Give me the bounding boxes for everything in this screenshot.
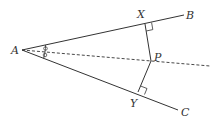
right-angle-mark-y — [141, 86, 147, 95]
label-b: B — [185, 9, 194, 22]
label-p: P — [153, 51, 162, 64]
equal-angle-arc-upper — [45, 45, 46, 52]
right-angle-mark-x — [146, 23, 153, 31]
label-x: X — [136, 8, 146, 21]
label-y: Y — [130, 97, 139, 110]
segment-xp — [145, 24, 151, 61]
angle-bisector-dashed — [22, 50, 210, 66]
geometry-diagram: A B C X Y P — [0, 0, 216, 121]
label-c: C — [181, 106, 190, 119]
ray-ab — [22, 15, 184, 50]
label-a: A — [10, 44, 19, 57]
